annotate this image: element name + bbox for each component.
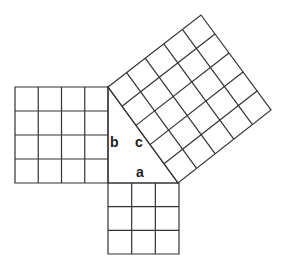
side-label-a: a [136, 164, 144, 180]
square-c [108, 15, 271, 183]
side-label-c: c [135, 134, 143, 150]
square-a [108, 183, 179, 254]
pythagorean-diagram: a b c [0, 0, 283, 273]
square-b [15, 87, 108, 183]
side-label-b: b [110, 134, 119, 150]
